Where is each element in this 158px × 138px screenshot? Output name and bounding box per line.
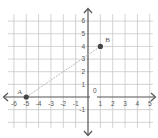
y-tick-label: 2 — [81, 68, 85, 75]
x-tick-label: -1 — [73, 100, 79, 107]
point-label-A: A — [17, 88, 22, 96]
y-tick-label: 5 — [81, 30, 85, 37]
y-tick-label: 6 — [81, 17, 85, 24]
coordinate-plane: -6-5-4-3-2-112345 123456-1 0 AB — [0, 0, 158, 138]
y-tick-labels: 123456-1 — [79, 17, 85, 113]
x-tick-label: 4 — [136, 100, 140, 107]
x-tick-label: -5 — [23, 100, 29, 107]
x-tick-label: 1 — [99, 100, 103, 107]
x-tick-label: -6 — [11, 100, 17, 107]
x-tick-label: -2 — [60, 100, 66, 107]
point-label-B: B — [105, 36, 110, 44]
x-tick-label: -3 — [48, 100, 54, 107]
y-tick-label: 4 — [81, 43, 85, 50]
x-tick-label: -4 — [36, 100, 42, 107]
y-tick-label: 1 — [81, 81, 85, 88]
x-tick-label: 5 — [148, 100, 152, 107]
point-A — [24, 94, 29, 99]
y-tick-label: -1 — [79, 106, 85, 113]
point-B — [98, 44, 103, 49]
origin-label: 0 — [93, 87, 97, 94]
x-tick-label: 3 — [123, 100, 127, 107]
x-tick-label: 2 — [111, 100, 115, 107]
